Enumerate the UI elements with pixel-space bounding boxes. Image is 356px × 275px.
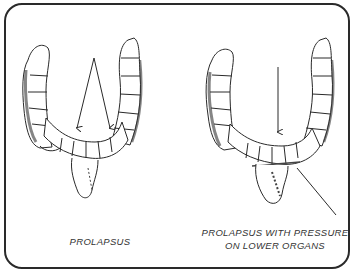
caption-prolapsus: PROLAPSUS — [40, 235, 160, 248]
caption-prolapsus-with-pressure: PROLAPSUS WITH PRESSURE ON LOWER ORGANS — [195, 226, 355, 252]
right-colon-drawing — [206, 38, 333, 203]
caption-line-1: PROLAPSUS WITH PRESSURE — [195, 226, 355, 239]
left-colon-drawing — [23, 38, 141, 198]
left-arrows — [77, 58, 110, 128]
caption-line-2: ON LOWER ORGANS — [195, 239, 355, 252]
